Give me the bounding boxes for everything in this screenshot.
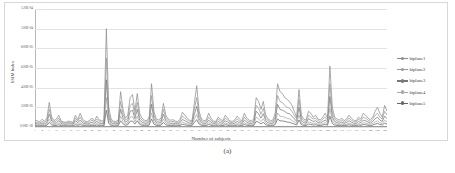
- legend-item-biplane1[interactable]: biplane1: [397, 53, 455, 64]
- x-tick-label: 115: [304, 129, 308, 132]
- x-tick-label: 34: [112, 129, 115, 132]
- legend-label: biplane1: [410, 56, 426, 61]
- y-tick-label: 6.00E-05: [21, 66, 33, 69]
- x-tick-label: 112: [297, 129, 301, 132]
- x-tick-label: 16: [69, 129, 72, 132]
- x-tick-label: 130: [340, 129, 344, 132]
- legend-item-biplane5[interactable]: biplane5: [397, 98, 455, 109]
- x-tick-label: 136: [354, 129, 358, 132]
- legend-swatch-icon: [397, 78, 408, 84]
- y-tick-label: 8.00E-05: [21, 47, 33, 50]
- x-tick-label: 73: [205, 129, 208, 132]
- x-tick-label: 118: [311, 129, 315, 132]
- legend-item-biplane3[interactable]: biplane3: [397, 75, 455, 86]
- y-tick-label: 1.00E-04: [21, 27, 33, 30]
- x-tick-label: 4: [41, 129, 42, 132]
- x-tick-label: 127: [333, 129, 337, 132]
- x-tick-label: 109: [290, 129, 294, 132]
- x-tick-label: 133: [347, 129, 351, 132]
- y-tick-label: 1.20E-04: [21, 7, 33, 10]
- figure-caption: (a): [0, 147, 455, 155]
- x-tick-label: 10: [55, 129, 58, 132]
- plot-area: [35, 9, 387, 127]
- x-tick-label: 55: [162, 129, 165, 132]
- x-tick-label: 79: [219, 129, 222, 132]
- x-tick-label: 43: [133, 129, 136, 132]
- legend-swatch-icon: [397, 56, 408, 62]
- x-tick-label: 106: [283, 129, 287, 132]
- y-tick-label: 4.00E-05: [21, 86, 33, 89]
- x-tick-label: 139: [361, 129, 365, 132]
- y-tick-label: 0.00E+00: [20, 125, 33, 128]
- x-tick-label: 103: [275, 129, 279, 132]
- x-tick-label: 76: [212, 129, 215, 132]
- x-tick-label: 52: [155, 129, 158, 132]
- x-tick-label: 25: [91, 129, 94, 132]
- y-axis-tick-labels: 1.20E-041.00E-048.00E-056.00E-054.00E-05…: [5, 3, 35, 140]
- x-tick-label: 94: [255, 129, 258, 132]
- x-tick-label: 148: [382, 129, 386, 132]
- legend: biplane1biplane2biplane3biplane4biplane5: [397, 53, 455, 109]
- legend-label: biplane4: [410, 90, 426, 95]
- x-tick-label: 97: [262, 129, 265, 132]
- x-tick-label: 70: [198, 129, 201, 132]
- x-tick-label: 124: [325, 129, 329, 132]
- x-tick-label: 46: [141, 129, 144, 132]
- x-tick-label: 100: [268, 129, 272, 132]
- x-tick-label: 58: [169, 129, 172, 132]
- legend-item-biplane2[interactable]: biplane2: [397, 64, 455, 75]
- x-tick-label: 82: [226, 129, 229, 132]
- legend-label: biplane2: [410, 67, 426, 72]
- legend-swatch-icon: [397, 100, 408, 106]
- series-line-biplane1: [35, 29, 387, 123]
- figure-container: SSIM Index 1.20E-041.00E-048.00E-056.00E…: [0, 0, 455, 173]
- x-tick-label: 121: [318, 129, 322, 132]
- x-tick-label: 28: [98, 129, 101, 132]
- x-tick-label: 64: [183, 129, 186, 132]
- x-tick-label: 91: [248, 129, 251, 132]
- legend-label: biplane5: [410, 101, 426, 106]
- x-tick-label: 13: [62, 129, 65, 132]
- x-tick-label: 7: [49, 129, 50, 132]
- x-tick-label: 142: [368, 129, 372, 132]
- x-axis-title: Number of subjects: [35, 136, 387, 141]
- x-tick-label: 22: [83, 129, 86, 132]
- chart-frame: SSIM Index 1.20E-041.00E-048.00E-056.00E…: [4, 2, 448, 141]
- x-tick-label: 67: [191, 129, 194, 132]
- legend-swatch-icon: [397, 89, 408, 95]
- x-tick-label: 145: [375, 129, 379, 132]
- y-tick-label: 2.00E-05: [21, 106, 33, 109]
- x-tick-label: 85: [233, 129, 236, 132]
- x-tick-label: 40: [126, 129, 129, 132]
- x-axis-line: [35, 126, 387, 127]
- x-tick-label: 61: [176, 129, 179, 132]
- legend-swatch-icon: [397, 67, 408, 73]
- legend-item-biplane4[interactable]: biplane4: [397, 87, 455, 98]
- x-tick-label: 31: [105, 129, 108, 132]
- legend-label: biplane3: [410, 78, 426, 83]
- x-tick-label: 1: [34, 129, 35, 132]
- chart-series-svg: [35, 9, 387, 127]
- x-tick-label: 49: [148, 129, 151, 132]
- x-tick-label: 19: [76, 129, 79, 132]
- x-tick-label: 88: [240, 129, 243, 132]
- series-line-biplane2: [35, 58, 387, 123]
- x-tick-label: 37: [119, 129, 122, 132]
